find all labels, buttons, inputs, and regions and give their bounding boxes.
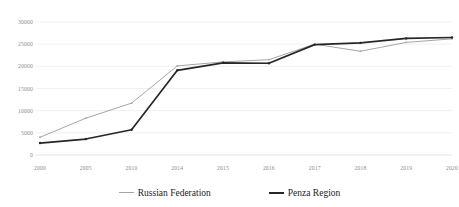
legend-label-russian-federation: Russian Federation: [138, 188, 211, 198]
data-point: [360, 50, 362, 52]
y-tick-label: 10000: [18, 108, 33, 114]
x-tick-label: 2020: [446, 165, 458, 171]
data-point: [85, 117, 87, 119]
data-point: [359, 42, 361, 44]
data-point: [39, 136, 41, 138]
gridlines: [36, 22, 452, 155]
legend-item-russian-federation: Russian Federation: [119, 188, 211, 198]
x-tick-label: 2016: [263, 165, 275, 171]
y-tick-label: 5000: [21, 130, 33, 136]
data-point: [405, 41, 407, 43]
legend-item-penza-region: Penza Region: [269, 188, 341, 198]
x-tick-label: 2010: [126, 165, 138, 171]
x-tick-label: 2017: [309, 165, 321, 171]
y-tick-label: 15000: [18, 86, 33, 92]
x-tick-label: 2015: [217, 165, 229, 171]
line-chart: 050001000015000200002500030000 200020052…: [0, 0, 459, 207]
data-point: [176, 65, 178, 67]
y-tick-label: 25000: [18, 41, 33, 47]
plot-area: 050001000015000200002500030000 200020052…: [0, 0, 459, 178]
series-lines: [40, 38, 452, 144]
y-axis-tick-labels: 050001000015000200002500030000: [18, 19, 33, 158]
x-axis-tick-labels: 2000200520102014201520162017201820192020: [34, 165, 458, 171]
y-tick-label: 20000: [18, 63, 33, 69]
data-point: [405, 37, 407, 39]
x-tick-label: 2018: [354, 165, 366, 171]
legend-swatch-russian-federation: [119, 192, 134, 193]
x-tick-label: 2000: [34, 165, 46, 171]
series-line-russian-federation: [40, 39, 452, 137]
data-point: [313, 43, 315, 45]
x-tick-label: 2014: [171, 165, 183, 171]
series-markers: [39, 36, 453, 144]
legend-label-penza-region: Penza Region: [288, 188, 341, 198]
x-tick-label: 2005: [80, 165, 92, 171]
legend-swatch-penza-region: [269, 192, 284, 194]
data-point: [268, 59, 270, 61]
data-point: [39, 142, 41, 144]
y-tick-label: 30000: [18, 19, 33, 25]
chart-svg: 050001000015000200002500030000 200020052…: [0, 0, 459, 178]
y-tick-label: 0: [30, 152, 33, 158]
data-point: [85, 138, 87, 140]
data-point: [131, 102, 133, 104]
chart-legend: Russian Federation Penza Region: [0, 178, 459, 207]
data-point: [130, 129, 132, 131]
x-tick-label: 2019: [400, 165, 412, 171]
series-line-penza-region: [40, 38, 452, 144]
data-point: [176, 69, 178, 71]
data-point: [222, 62, 224, 64]
data-point: [451, 36, 453, 38]
data-point: [268, 62, 270, 64]
